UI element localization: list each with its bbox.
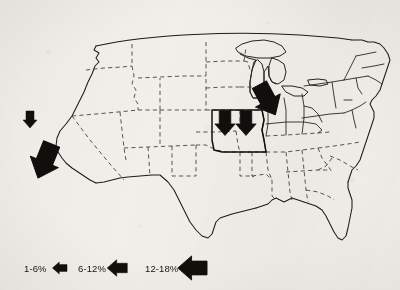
state-borders-west	[72, 42, 206, 180]
legend-label-1-6: 1-6%	[24, 263, 47, 274]
legend-arrow-12-18	[178, 256, 207, 280]
legend-arrows	[52, 256, 207, 280]
marker-northern-california[interactable]	[23, 111, 37, 128]
legend-arrow-1-6	[52, 262, 67, 274]
marker-indiana-michigan[interactable]	[247, 78, 288, 121]
map-figure: 1-6% 6-12% 12-18%	[0, 0, 400, 290]
map-svg	[0, 0, 400, 290]
national-outline	[56, 33, 390, 240]
marker-southern-california[interactable]	[24, 138, 66, 183]
state-borders-plains	[196, 48, 272, 180]
state-borders-midwest-east	[262, 52, 384, 152]
map-markers	[23, 78, 288, 184]
marker-missouri-east[interactable]	[236, 111, 256, 136]
marker-missouri-west[interactable]	[215, 111, 235, 136]
state-borders-southeast	[266, 132, 360, 202]
legend-label-6-12: 6-12%	[78, 263, 106, 274]
legend-arrow-6-12	[107, 260, 127, 277]
legend-label-12-18: 12-18%	[145, 263, 178, 274]
